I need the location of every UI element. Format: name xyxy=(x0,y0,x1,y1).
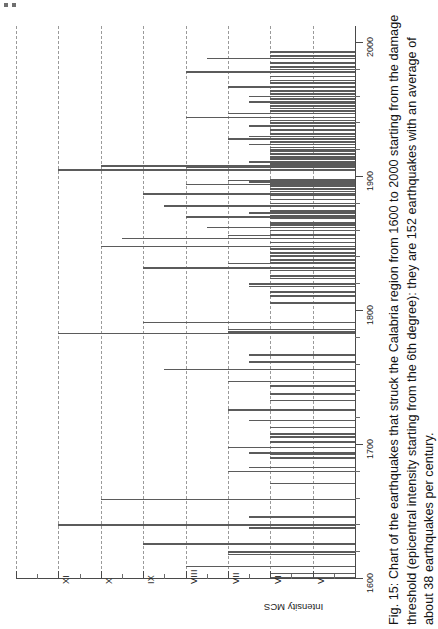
intensity-tick-minor xyxy=(164,574,165,579)
earthquake-bar xyxy=(270,98,355,100)
earthquake-bar xyxy=(228,381,355,382)
earthquake-bar xyxy=(270,385,355,387)
intensity-tick xyxy=(228,571,229,579)
earthquake-bar xyxy=(186,167,356,168)
intensity-tick xyxy=(58,571,59,579)
earthquake-bar xyxy=(270,259,355,261)
earthquake-bar xyxy=(143,322,355,323)
intensity-tick-label: XI xyxy=(62,575,71,584)
earthquake-bar xyxy=(249,161,355,163)
earthquake-bar xyxy=(249,101,355,103)
year-tick xyxy=(355,230,360,231)
earthquake-bar xyxy=(270,185,355,187)
year-tick xyxy=(355,283,360,284)
earthquake-bar xyxy=(270,252,355,254)
year-tick xyxy=(355,96,360,97)
year-tick xyxy=(355,444,363,445)
earthquake-bar xyxy=(270,248,355,250)
earthquake-bar xyxy=(270,90,355,92)
intensity-tick-minor xyxy=(80,574,81,579)
earthquake-bar xyxy=(270,195,355,197)
intensity-tick-minor xyxy=(291,574,292,579)
earthquake-bar xyxy=(270,262,355,264)
earthquake-bar xyxy=(270,69,355,71)
year-tick xyxy=(355,176,363,177)
earthquake-bar xyxy=(270,76,355,78)
earthquake-bar xyxy=(270,191,355,193)
earthquake-bar xyxy=(270,141,355,143)
earthquake-bar xyxy=(249,286,355,288)
earthquake-bar xyxy=(270,291,355,293)
earthquake-bar xyxy=(228,329,355,330)
year-tick-label: 1600 xyxy=(366,573,375,593)
earthquake-bar xyxy=(270,156,355,158)
earthquake-bar xyxy=(270,55,355,57)
earthquake-bar xyxy=(186,117,356,118)
earthquake-bar xyxy=(143,543,355,544)
earthquake-bar xyxy=(228,138,355,139)
intensity-tick-minor xyxy=(249,574,250,579)
earthquake-bar xyxy=(249,527,355,529)
intensity-tick xyxy=(186,571,187,579)
year-tick xyxy=(355,337,360,338)
intensity-tick-label: VIII xyxy=(190,569,199,584)
earthquake-bar xyxy=(249,467,355,469)
earthquake-bar xyxy=(249,283,355,285)
earthquake-bar xyxy=(270,80,355,82)
earthquake-bar xyxy=(101,499,355,500)
intensity-tick-label: VII xyxy=(232,572,241,584)
earthquake-bar xyxy=(270,275,355,277)
year-tick xyxy=(355,310,363,311)
earthquake-bar xyxy=(270,215,355,217)
earthquake-bar xyxy=(249,125,355,127)
earthquake-bar xyxy=(228,113,355,114)
earthquake-bar xyxy=(270,105,355,107)
earthquake-bar xyxy=(270,302,355,304)
earthquake-bar xyxy=(270,393,355,395)
earthquake-bar xyxy=(58,333,355,334)
year-tick xyxy=(355,551,360,552)
earthquake-bar xyxy=(228,551,355,552)
earthquake-bar xyxy=(186,71,356,72)
earthquake-bar xyxy=(270,133,355,135)
intensity-tick-minor xyxy=(207,574,208,579)
year-tick xyxy=(355,524,360,525)
intensity-tick-label: VI xyxy=(274,575,283,584)
earthquake-bar xyxy=(207,227,355,228)
earthquake-bar xyxy=(270,483,355,485)
earthquake-bar xyxy=(249,354,355,356)
intensity-tick-minor xyxy=(37,574,38,579)
earthquake-bar xyxy=(270,129,355,131)
earthquake-bar xyxy=(143,193,355,194)
earthquake-bar xyxy=(270,234,355,236)
figure-caption: Fig. 15: Chart of the earthquakes that s… xyxy=(386,13,438,625)
earthquake-bar xyxy=(270,400,355,402)
earthquake-bar xyxy=(270,295,355,297)
intensity-tick-label: X xyxy=(105,578,114,584)
intensity-axis-title: Intensity MCS xyxy=(264,602,323,613)
earthquake-bar xyxy=(228,409,355,410)
gridline-intensity xyxy=(186,26,187,579)
gridline-intensity xyxy=(58,26,59,579)
earthquake-bar xyxy=(270,149,355,151)
figure-page: XIXIXVIIIVIIVIV 16001700180019002000 Int… xyxy=(0,0,438,629)
year-tick xyxy=(355,417,360,418)
earthquake-bar xyxy=(228,554,355,555)
earthquake-bar xyxy=(270,436,355,438)
earthquake-bar xyxy=(270,427,355,429)
earthquake-bar xyxy=(270,210,355,212)
earthquake-bar xyxy=(270,51,355,53)
gridline-intensity xyxy=(16,26,17,579)
year-tick xyxy=(355,256,360,257)
earthquake-bar xyxy=(270,218,355,220)
intensity-tick xyxy=(101,571,102,579)
earthquake-bar xyxy=(270,433,355,435)
year-tick xyxy=(355,42,363,43)
earthquake-bar xyxy=(270,242,355,244)
year-tick xyxy=(355,364,360,365)
earthquake-bar xyxy=(270,62,355,64)
year-tick xyxy=(355,203,360,204)
earthquake-bar xyxy=(270,82,355,84)
intensity-tick-minor xyxy=(334,574,335,579)
year-tick xyxy=(355,471,360,472)
